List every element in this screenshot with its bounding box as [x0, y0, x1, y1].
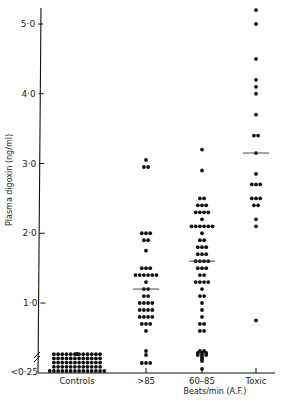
- data-point: [256, 203, 260, 207]
- x-tick-label: Toxic: [245, 376, 267, 386]
- data-point: [150, 308, 154, 312]
- data-point: [56, 357, 60, 361]
- data-point: [142, 301, 146, 305]
- data-point: [148, 322, 152, 326]
- data-point: [194, 280, 198, 284]
- data-point: [144, 231, 148, 235]
- data-point: [204, 351, 208, 355]
- data-point: [90, 365, 94, 369]
- data-point: [102, 369, 106, 373]
- data-point: [140, 231, 144, 235]
- data-point: [256, 134, 260, 138]
- data-point: [142, 273, 146, 277]
- data-point: [200, 148, 204, 152]
- data-point: [73, 357, 77, 361]
- x-tick-label: >85: [137, 376, 155, 386]
- data-point: [142, 165, 146, 169]
- data-point: [144, 353, 148, 357]
- data-point: [254, 22, 258, 26]
- data-point: [69, 357, 73, 361]
- data-point: [202, 238, 206, 242]
- data-point: [65, 352, 69, 356]
- data-point: [73, 365, 77, 369]
- data-point: [254, 78, 258, 82]
- data-point: [94, 352, 98, 356]
- data-point: [146, 273, 150, 277]
- data-point: [86, 357, 90, 361]
- data-point: [254, 57, 258, 61]
- data-point: [60, 352, 64, 356]
- data-point: [200, 355, 204, 359]
- data-point: [194, 210, 198, 214]
- data-point: [65, 365, 69, 369]
- data-point: [258, 183, 262, 187]
- y-tick-label: 2·0: [23, 228, 38, 238]
- data-point: [206, 210, 210, 214]
- data-point: [56, 352, 60, 356]
- data-point: [144, 361, 148, 365]
- data-point: [196, 266, 200, 270]
- data-point: [200, 203, 204, 207]
- data-point: [77, 361, 81, 365]
- data-point: [196, 252, 200, 256]
- data-point: [52, 357, 56, 361]
- data-point: [254, 172, 258, 176]
- data-point: [98, 357, 102, 361]
- data-point: [73, 352, 77, 356]
- data-point: [198, 322, 202, 326]
- y-axis-line: [38, 8, 41, 373]
- data-point: [94, 365, 98, 369]
- data-point: [134, 273, 138, 277]
- data-point: [198, 329, 202, 333]
- data-point: [155, 273, 159, 277]
- data-point: [148, 231, 152, 235]
- data-point: [81, 361, 85, 365]
- y-axis: 5·04·03·02·01·0<0·25: [10, 8, 45, 377]
- x-tick-label: Controls: [59, 376, 95, 386]
- data-point: [254, 217, 258, 221]
- data-point: [146, 301, 150, 305]
- data-point: [81, 352, 85, 356]
- data-point: [69, 369, 73, 373]
- data-point: [200, 287, 204, 291]
- data-point: [65, 361, 69, 365]
- data-point: [254, 92, 258, 96]
- data-point: [202, 329, 206, 333]
- data-point: [94, 361, 98, 365]
- data-point: [200, 308, 204, 312]
- data-point: [202, 273, 206, 277]
- data-point: [200, 359, 204, 363]
- data-point: [77, 352, 81, 356]
- data-point: [150, 273, 154, 277]
- data-point: [98, 361, 102, 365]
- data-point: [198, 294, 202, 298]
- data-point: [204, 203, 208, 207]
- data-point: [200, 315, 204, 319]
- data-point: [60, 365, 64, 369]
- data-point: [198, 196, 202, 200]
- data-point: [52, 361, 56, 365]
- data-point: [56, 365, 60, 369]
- data-point: [200, 217, 204, 221]
- data-point: [250, 196, 254, 200]
- data-point: [202, 294, 206, 298]
- data-point: [196, 203, 200, 207]
- data-point: [206, 280, 210, 284]
- data-point: [258, 196, 262, 200]
- data-point: [138, 315, 142, 319]
- data-point: [144, 266, 148, 270]
- data-point: [69, 361, 73, 365]
- x-tick-label: 60–85: [189, 376, 215, 386]
- data-point: [52, 365, 56, 369]
- data-point: [202, 210, 206, 214]
- data-point: [190, 224, 194, 228]
- data-point: [98, 365, 102, 369]
- data-point: [94, 369, 98, 373]
- data-point: [204, 245, 208, 249]
- y-tick-label: <0·25: [10, 367, 38, 377]
- data-point: [200, 301, 204, 305]
- data-point: [144, 329, 148, 333]
- data-point: [65, 357, 69, 361]
- data-point: [98, 369, 102, 373]
- data-point: [200, 351, 204, 355]
